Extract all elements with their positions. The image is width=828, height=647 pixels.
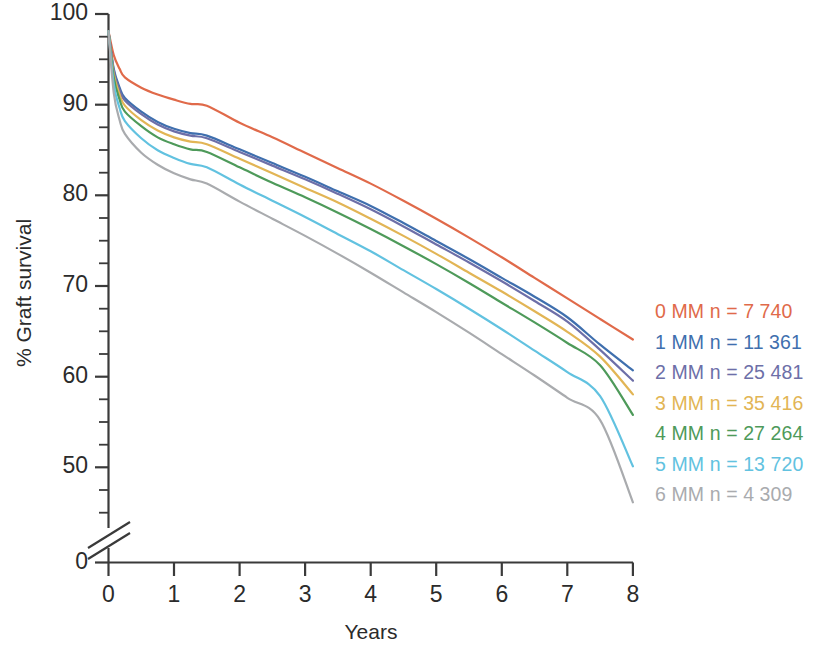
curve-1-mm [109, 31, 633, 370]
legend-item-3-mm: 3 MM n = 35 416 [655, 388, 828, 419]
legend-item-1-mm: 1 MM n = 11 361 [655, 327, 828, 358]
legend: 0 MM n = 7 740 1 MM n = 11 361 2 MM n = … [655, 296, 828, 510]
legend-label-3-mm: 3 MM n = 35 416 [655, 392, 803, 414]
curve-0-mm [109, 31, 633, 339]
legend-label-0-mm: 0 MM n = 7 740 [655, 300, 792, 322]
legend-item-6-mm: 6 MM n = 4 309 [655, 479, 828, 510]
data-curves-group [109, 31, 633, 502]
legend-item-4-mm: 4 MM n = 27 264 [655, 418, 828, 449]
xtick-label-8: 8 [627, 581, 640, 607]
y-axis-minor-ticks [99, 37, 109, 513]
y-axis-major-ticks [95, 14, 109, 563]
xtick-label-3: 3 [299, 581, 312, 607]
ytick-label-60: 60 [62, 362, 88, 388]
curve-3-mm [109, 31, 633, 394]
xtick-label-6: 6 [495, 581, 508, 607]
x-axis-ticks [109, 563, 633, 577]
xtick-label-2: 2 [233, 581, 246, 607]
legend-item-2-mm: 2 MM n = 25 481 [655, 357, 828, 388]
xtick-label-1: 1 [168, 581, 181, 607]
xtick-label-0: 0 [102, 581, 115, 607]
y-axis-title: % Graft survival [12, 219, 35, 367]
curve-6-mm [109, 31, 633, 502]
legend-item-5-mm: 5 MM n = 13 720 [655, 449, 828, 480]
ytick-label-80: 80 [62, 180, 88, 206]
curve-4-mm [109, 31, 633, 415]
ytick-label-90: 90 [62, 90, 88, 116]
legend-label-6-mm: 6 MM n = 4 309 [655, 483, 792, 505]
legend-label-2-mm: 2 MM n = 25 481 [655, 361, 803, 383]
legend-label-4-mm: 4 MM n = 27 264 [655, 422, 803, 444]
legend-label-5-mm: 5 MM n = 13 720 [655, 453, 803, 475]
xtick-label-5: 5 [430, 581, 443, 607]
legend-label-1-mm: 1 MM n = 11 361 [655, 331, 802, 353]
ytick-label-70: 70 [62, 271, 88, 297]
legend-item-0-mm: 0 MM n = 7 740 [655, 296, 828, 327]
x-axis-title: Years [345, 620, 398, 643]
ytick-label-0: 0 [75, 548, 88, 574]
xtick-label-4: 4 [364, 581, 377, 607]
ytick-label-100: 100 [50, 0, 88, 25]
xtick-label-7: 7 [561, 581, 574, 607]
ytick-label-50: 50 [62, 452, 88, 478]
curve-5-mm [109, 31, 633, 466]
chart-figure: 100 90 80 70 60 50 0 0 1 2 3 4 5 6 7 8 %… [0, 0, 828, 647]
